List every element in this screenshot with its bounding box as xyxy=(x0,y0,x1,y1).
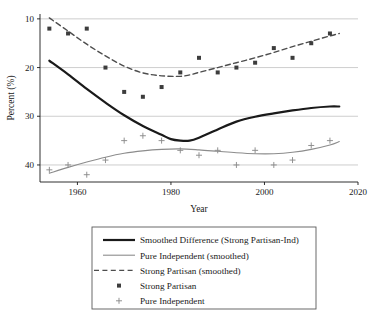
data-point-square xyxy=(47,27,51,31)
chart-canvas: 40302010 1960198020002020 Percent (%) Ye… xyxy=(0,0,376,325)
data-point-square xyxy=(234,66,238,70)
data-point-square xyxy=(66,31,70,35)
legend-swatch-square xyxy=(117,284,121,288)
data-point-plus xyxy=(233,162,239,168)
data-point-square xyxy=(85,27,89,31)
data-series-layer xyxy=(46,18,339,178)
data-point-plus xyxy=(215,147,221,153)
gridlines xyxy=(40,19,358,165)
data-point-square xyxy=(328,31,332,35)
data-point-square xyxy=(309,41,313,45)
y-axis-label: Percent (%) xyxy=(6,75,17,120)
chart-figure: 40302010 1960198020002020 Percent (%) Ye… xyxy=(0,0,376,325)
legend-label: Strong Partisan xyxy=(140,281,197,291)
data-point-plus xyxy=(177,147,183,153)
data-point-square xyxy=(291,56,295,60)
data-point-plus xyxy=(327,138,333,144)
data-point-plus xyxy=(46,167,52,173)
data-point-square xyxy=(272,46,276,50)
data-point-square xyxy=(160,85,164,89)
data-point-square xyxy=(216,70,220,74)
data-point-plus xyxy=(140,133,146,139)
y-tick-label: 10 xyxy=(25,14,35,24)
data-point-plus xyxy=(308,142,314,148)
data-point-square xyxy=(197,56,201,60)
data-point-plus xyxy=(121,138,127,144)
data-point-plus xyxy=(84,172,90,178)
x-tick-label: 1960 xyxy=(68,187,87,197)
data-point-plus xyxy=(159,138,165,144)
y-tick-label: 40 xyxy=(25,160,35,170)
data-point-square xyxy=(103,66,107,70)
y-axis: 40302010 xyxy=(25,14,40,182)
x-tick-label: 2000 xyxy=(255,187,274,197)
legend-label: Pure Independent xyxy=(140,296,205,306)
data-point-square xyxy=(253,61,257,65)
y-tick-label: 20 xyxy=(25,63,35,73)
legend-label: Strong Partisan (smoothed) xyxy=(140,266,241,276)
legend-label: Pure Independent (smoothed) xyxy=(140,251,249,261)
x-axis-label: Year xyxy=(190,204,208,214)
data-point-plus xyxy=(290,157,296,163)
legend-label: Smoothed Difference (Strong Partisan-Ind… xyxy=(140,235,299,245)
data-point-square xyxy=(178,70,182,74)
legend: Smoothed Difference (Strong Partisan-Ind… xyxy=(92,227,316,309)
x-tick-label: 2020 xyxy=(349,187,368,197)
x-axis: 1960198020002020 xyxy=(40,182,368,197)
data-point-plus xyxy=(196,152,202,158)
x-tick-label: 1980 xyxy=(162,187,181,197)
data-point-square xyxy=(122,90,126,94)
data-point-plus xyxy=(271,162,277,168)
series-line xyxy=(49,142,339,174)
series-line xyxy=(49,61,339,141)
data-point-square xyxy=(141,95,145,99)
y-tick-label: 30 xyxy=(25,111,35,121)
data-point-plus xyxy=(252,147,258,153)
